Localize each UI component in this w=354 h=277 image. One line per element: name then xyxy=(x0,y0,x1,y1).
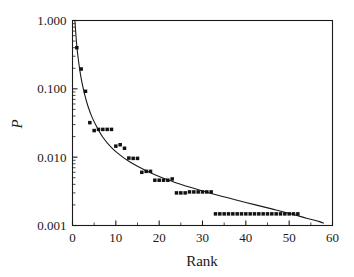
data-point xyxy=(162,178,166,182)
data-point xyxy=(170,177,174,181)
data-point xyxy=(253,212,257,216)
data-point xyxy=(166,178,170,182)
data-point xyxy=(188,190,192,194)
data-point xyxy=(266,212,270,216)
data-point xyxy=(183,191,187,195)
data-point xyxy=(235,212,239,216)
data-point xyxy=(283,212,287,216)
data-point xyxy=(131,157,135,161)
y-tick-label: 1.000 xyxy=(37,13,66,28)
data-point xyxy=(205,190,209,194)
data-point xyxy=(192,190,196,194)
y-tick-label: 0.100 xyxy=(37,81,66,96)
data-point xyxy=(287,212,291,216)
x-tick-label: 30 xyxy=(196,230,209,245)
data-point xyxy=(240,212,244,216)
data-point xyxy=(92,129,96,133)
x-tick-label: 20 xyxy=(153,230,166,245)
data-point xyxy=(136,157,140,161)
data-point xyxy=(209,190,213,194)
data-point xyxy=(105,128,109,132)
data-point xyxy=(222,212,226,216)
data-point xyxy=(231,212,235,216)
data-point xyxy=(179,191,183,195)
data-point xyxy=(244,212,248,216)
x-tick-label: 40 xyxy=(239,230,252,245)
data-point xyxy=(261,212,265,216)
data-point xyxy=(274,212,278,216)
data-point xyxy=(270,212,274,216)
data-point xyxy=(201,190,205,194)
data-point xyxy=(227,212,231,216)
data-point xyxy=(118,143,122,147)
y-axis-title: P xyxy=(9,119,25,129)
x-tick-label: 0 xyxy=(69,230,76,245)
data-point xyxy=(110,128,114,132)
x-tick-label: 10 xyxy=(109,230,122,245)
data-point xyxy=(218,212,222,216)
data-point xyxy=(175,191,179,195)
data-point xyxy=(144,170,148,174)
y-tick-label: 0.010 xyxy=(37,150,66,165)
data-point xyxy=(257,212,261,216)
data-point xyxy=(101,128,105,132)
data-point xyxy=(149,170,153,174)
x-tick-label: 50 xyxy=(283,230,296,245)
y-tick-label: 0.001 xyxy=(37,218,66,233)
data-point xyxy=(196,190,200,194)
data-point xyxy=(97,128,101,132)
data-point xyxy=(248,212,252,216)
data-point xyxy=(79,67,83,71)
data-point xyxy=(214,212,218,216)
data-point xyxy=(88,121,92,125)
data-point xyxy=(114,144,118,148)
data-point xyxy=(279,212,283,216)
data-point xyxy=(127,156,131,160)
rank-probability-chart: 0.0010.0100.1001.000 0102030405060 Rank … xyxy=(0,0,354,277)
x-axis-title: Rank xyxy=(186,253,218,269)
data-point xyxy=(84,90,88,94)
chart-background xyxy=(0,0,354,277)
data-point xyxy=(153,178,157,182)
data-point xyxy=(296,212,300,216)
data-point xyxy=(157,178,161,182)
data-point xyxy=(140,171,144,175)
x-tick-label: 60 xyxy=(326,230,339,245)
data-point xyxy=(292,212,296,216)
data-point xyxy=(123,147,127,151)
data-point xyxy=(75,46,79,50)
